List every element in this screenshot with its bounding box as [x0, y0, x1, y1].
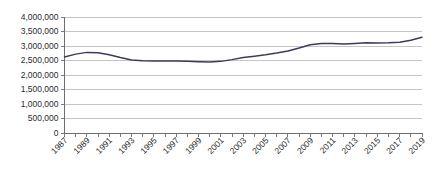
x-axis-tick-label: 2001: [205, 135, 226, 156]
x-axis-tick-label: 1989: [71, 135, 92, 156]
y-axis-tick-label: 500,000: [28, 113, 59, 123]
line-chart-figure: 4,000,0003,500,0003,000,0002,500,0002,00…: [0, 0, 440, 179]
y-axis-tick-label: 3,500,000: [21, 26, 59, 36]
x-axis-tick-label: 1999: [183, 135, 204, 156]
y-axis-tick-label: 2,500,000: [21, 55, 59, 65]
x-axis-tick-label: 2017: [384, 135, 405, 156]
x-axis-tick-label: 2007: [272, 135, 293, 156]
x-axis-tick-label: 2003: [228, 135, 249, 156]
y-axis-tick-label: 1,500,000: [21, 84, 59, 94]
x-axis-tick-labels: 1987198919911993199519971999200120032005…: [49, 135, 427, 156]
y-axis-tick-label: 3,000,000: [21, 41, 59, 51]
y-axis-tick-label: 4,000,000: [21, 12, 59, 22]
data-series-group: [65, 37, 423, 62]
x-axis-tick-label: 1993: [116, 135, 137, 156]
x-axis-tick-label: 1991: [94, 135, 115, 156]
y-axis-tick-labels: 4,000,0003,500,0003,000,0002,500,0002,00…: [21, 12, 59, 138]
x-axis-tick-label: 1987: [49, 135, 70, 156]
y-axis-tick-label: 0: [54, 128, 59, 138]
x-axis-tick-label: 2015: [362, 135, 383, 156]
x-axis-tick-label: 1995: [138, 135, 159, 156]
y-axis-tick-label: 2,000,000: [21, 70, 59, 80]
chart-canvas: 4,000,0003,500,0003,000,0002,500,0002,00…: [0, 0, 440, 179]
y-axis-tick-label: 1,000,000: [21, 99, 59, 109]
x-axis-tick-label: 2009: [295, 135, 316, 156]
x-axis-tick-label: 1997: [161, 135, 182, 156]
x-axis-tick-label: 2019: [406, 135, 427, 156]
x-axis-tick-label: 2013: [339, 135, 360, 156]
x-axis-tick-label: 2005: [250, 135, 271, 156]
x-axis-tick-label: 2011: [318, 135, 338, 155]
gridlines-group: [65, 17, 423, 119]
data-line-series-0: [65, 37, 423, 62]
